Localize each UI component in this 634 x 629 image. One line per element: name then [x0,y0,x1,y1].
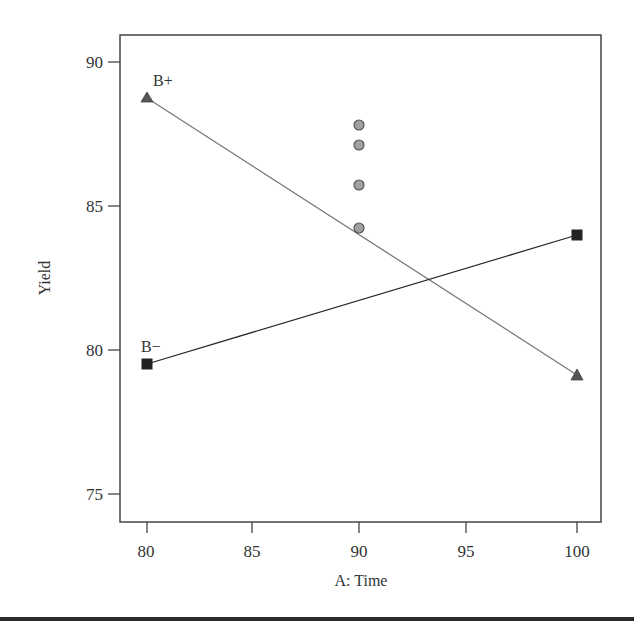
x-tick-label: 80 [138,542,155,561]
circle-marker-icon [354,140,364,150]
series-label-b-minus: B− [141,338,161,355]
x-axis: 80 85 90 95 100 A: Time [138,522,590,589]
circle-marker-icon [354,223,364,233]
y-tick-label: 75 [86,485,103,504]
y-tick-label: 85 [86,197,103,216]
y-axis: 90 85 80 75 Yield [36,53,120,504]
interaction-plot: 90 85 80 75 Yield 80 85 90 95 100 A: Tim… [0,0,634,629]
y-axis-title: Yield [36,261,53,296]
triangle-marker-icon [571,369,583,380]
plot-frame [120,35,601,522]
x-tick-label: 95 [458,542,475,561]
series-b-minus-line [147,235,577,364]
square-marker-icon [142,359,153,370]
circle-marker-icon [354,180,364,190]
page-divider [0,617,634,621]
x-axis-title: A: Time [335,572,388,589]
y-tick-label: 90 [86,53,103,72]
triangle-marker-icon [141,92,153,102]
y-tick-label: 80 [86,341,103,360]
x-tick-label: 100 [564,542,590,561]
circle-marker-icon [354,120,364,130]
series-label-b-plus: B+ [153,72,173,89]
square-marker-icon [572,230,583,241]
x-tick-label: 90 [351,542,368,561]
x-tick-label: 85 [244,542,261,561]
series-b-plus-line [147,98,577,375]
